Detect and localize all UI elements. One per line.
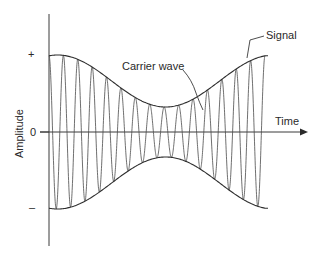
am-diagram: Signal Carrier wave Time Amplitude + 0 – [0, 0, 323, 262]
tick-zero: 0 [30, 127, 36, 138]
amplitude-axis-label: Amplitude [14, 109, 25, 158]
time-axis-label: Time [275, 116, 299, 127]
tick-positive: + [28, 49, 34, 60]
tick-negative: – [29, 202, 35, 213]
signal-leader-line [247, 36, 264, 58]
signal-label: Signal [266, 30, 297, 41]
carrier-leader-line [183, 70, 203, 110]
carrier-wave-label: Carrier wave [122, 61, 184, 72]
signal-envelope-lower [49, 157, 268, 209]
x-axis-arrow-icon [300, 129, 308, 136]
